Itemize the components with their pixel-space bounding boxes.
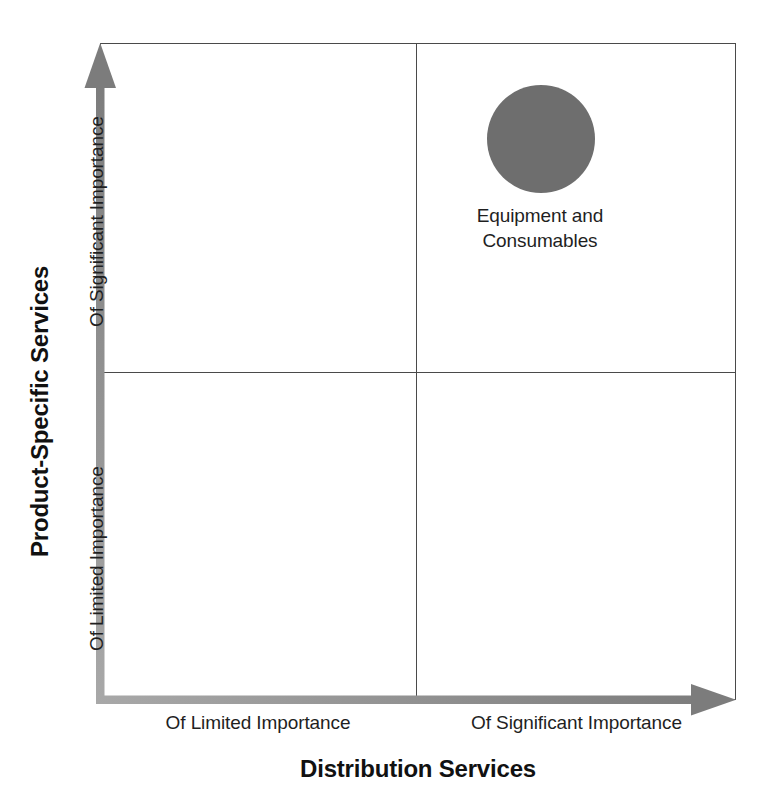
y-axis-title: Product-Specific Services bbox=[26, 266, 54, 557]
x-tick-label-significant: Of Significant Importance bbox=[417, 712, 736, 734]
quadrant-divider-horizontal bbox=[101, 372, 736, 373]
quadrant-chart: Equipment and Consumables Of Limited Imp… bbox=[0, 0, 762, 803]
bubble-label-line-1: Equipment and bbox=[430, 203, 650, 228]
bubble-label-equipment-and-consumables: Equipment and Consumables bbox=[430, 203, 650, 253]
bubble-equipment-and-consumables[interactable] bbox=[487, 85, 595, 193]
x-tick-label-limited: Of Limited Importance bbox=[100, 712, 416, 734]
x-axis-title: Distribution Services bbox=[100, 755, 736, 783]
bubble-label-line-2: Consumables bbox=[430, 228, 650, 253]
y-tick-label-significant: Of Significant Importance bbox=[86, 116, 108, 327]
y-tick-label-limited: Of Limited Importance bbox=[86, 466, 108, 651]
